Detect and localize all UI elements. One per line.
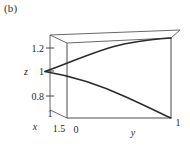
- plot-canvas: 1.2 1 0.8 z 1 1.5 x 0 1 y: [0, 0, 190, 148]
- y-axis-name: y: [130, 127, 136, 138]
- y-tick-label-0: 0: [74, 124, 79, 135]
- curve-upper-branch: [45, 38, 171, 72]
- x-tick-label-1.5: 1.5: [53, 123, 66, 134]
- x-tick-label-1: 1: [48, 108, 53, 119]
- z-tick-label-0.8: 0.8: [32, 91, 45, 102]
- figure-panel: (b) 1.2 1 0.8 z 1 1.5 x 0 1 y: [0, 0, 190, 148]
- x-axis-name: x: [32, 121, 38, 132]
- curve-lower-branch: [45, 72, 171, 119]
- z-tick-label-1: 1: [39, 66, 44, 77]
- z-axis-name: z: [23, 66, 28, 77]
- box-top-face: [50, 30, 180, 43]
- z-tick-label-1.2: 1.2: [32, 43, 45, 54]
- y-tick-label-1: 1: [176, 117, 181, 128]
- box-bottom-left-depth-edge: [50, 110, 67, 118]
